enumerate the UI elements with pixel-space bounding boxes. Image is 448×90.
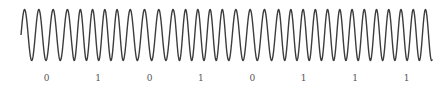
bit-label: 1 bbox=[95, 73, 101, 83]
bit-label: 1 bbox=[352, 73, 358, 83]
fsk-waveform-line bbox=[21, 10, 432, 61]
bit-label: 0 bbox=[44, 73, 50, 83]
bit-label: 1 bbox=[198, 73, 204, 83]
bit-label: 0 bbox=[249, 73, 255, 83]
fsk-waveform-chart: 01010111 bbox=[0, 0, 448, 90]
bit-label: 1 bbox=[404, 73, 410, 83]
bit-labels: 01010111 bbox=[44, 73, 410, 83]
bit-label: 1 bbox=[301, 73, 307, 83]
bit-label: 0 bbox=[147, 73, 153, 83]
